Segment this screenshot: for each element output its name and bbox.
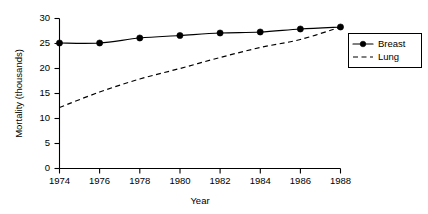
data-point-breast-1978 [137,35,143,41]
x-tick-label-1982: 1982 [210,175,231,186]
y-tick-label-0: 0 [45,162,50,173]
x-tick-label-1974: 1974 [49,175,70,186]
x-tick-label-1978: 1978 [129,175,150,186]
data-series-layer [56,24,343,108]
x-tick-label-1984: 1984 [250,175,271,186]
series-line-lung [60,27,341,108]
legend-label-breast: Breast [378,38,406,49]
data-point-breast-1976 [97,40,103,46]
series-lung [60,27,341,108]
chart-legend: Breast Lung [349,34,422,68]
x-tick-label-1980: 1980 [169,175,190,186]
data-point-breast-1986 [297,26,303,32]
data-point-breast-1980 [177,32,183,38]
y-tick-label-20: 20 [39,62,50,73]
data-point-breast-1982 [217,30,223,36]
x-tick-label-1976: 1976 [89,175,110,186]
data-point-breast-1974 [56,40,62,46]
x-axis-ticks: 1974 1976 1978 1980 1982 1984 1986 1988 [49,169,351,187]
y-tick-label-10: 10 [39,112,50,123]
y-tick-label-25: 25 [39,37,50,48]
x-axis-title: Year [190,195,209,206]
x-tick-label-1986: 1986 [290,175,311,186]
data-point-breast-1984 [257,29,263,35]
y-axis-ticks: 0 5 10 15 20 25 30 [39,12,59,173]
chart-figure: 0 5 10 15 20 25 30 1974 1976 1978 1980 [0,0,428,214]
y-tick-label-5: 5 [45,137,50,148]
legend-label-lung: Lung [378,51,399,62]
y-tick-label-15: 15 [39,87,50,98]
y-tick-label-30: 30 [39,12,50,23]
legend-swatch-marker-icon [360,41,366,47]
series-breast [56,24,343,46]
y-axis-title: Mortality (thousands) [13,49,24,138]
mortality-line-chart: 0 5 10 15 20 25 30 1974 1976 1978 1980 [0,0,428,214]
x-tick-label-1988: 1988 [330,175,351,186]
